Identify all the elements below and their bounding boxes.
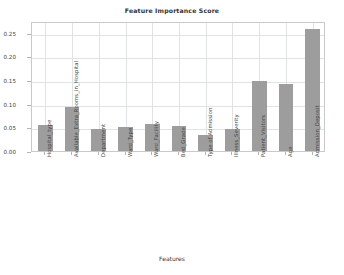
x-axis-title: Features (0, 255, 344, 262)
x-tick-label: Patient_Visitors (260, 115, 266, 157)
y-tick-mark (27, 152, 31, 153)
x-tick-label: Ward_Facility (153, 121, 159, 157)
y-tick-mark (27, 105, 31, 106)
y-tick-mark (27, 81, 31, 82)
x-tick-mark (285, 152, 286, 155)
y-tick-mark (27, 34, 31, 35)
x-tick-label: Illness_Severity (233, 114, 239, 157)
x-tick-label: Type of Admission (207, 108, 213, 157)
x-tick-label: Admission_Deposit (314, 105, 320, 157)
x-tick-mark (312, 152, 313, 155)
y-tick-label: 0.10 (0, 102, 16, 108)
y-tick-label: 0.00 (0, 149, 16, 155)
x-tick-label: Hospital_type (46, 120, 52, 157)
x-tick-mark (125, 152, 126, 155)
y-tick-label: 0.20 (0, 54, 16, 60)
y-tick-label: 0.15 (0, 78, 16, 84)
x-tick-label: Age (287, 146, 293, 157)
y-tick-mark (27, 128, 31, 129)
x-tick-mark (71, 152, 72, 155)
bar (279, 84, 294, 151)
y-tick-mark (27, 57, 31, 58)
x-tick-label: Bed_Grade (180, 127, 186, 157)
x-tick-mark (205, 152, 206, 155)
x-tick-mark (98, 152, 99, 155)
x-tick-mark (178, 152, 179, 155)
x-tick-label: Department (100, 124, 106, 157)
chart-figure: Feature Importance Score Features 0.000.… (0, 0, 344, 275)
x-tick-label: Ward_Type (127, 128, 133, 157)
x-tick-label: Available_Extra_Rooms_in_Hospital (73, 61, 79, 157)
y-tick-label: 0.05 (0, 125, 16, 131)
y-tick-label: 0.25 (0, 31, 16, 37)
chart-title: Feature Importance Score (0, 7, 344, 14)
